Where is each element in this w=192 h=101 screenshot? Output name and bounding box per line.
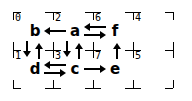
- node-b: b: [30, 22, 41, 40]
- edge-d-to-b: [35, 43, 43, 59]
- grid-tick: [45, 80, 61, 89]
- grid-tick: [13, 80, 21, 89]
- cell-label-1: 1: [15, 50, 21, 61]
- grid-tick: [165, 80, 174, 89]
- cell-label-3: 3: [55, 50, 61, 61]
- grid-graph-diagram: 02641375 bafdce: [0, 0, 192, 101]
- cell-label-2: 2: [55, 12, 61, 23]
- diagram-canvas: 02641375 bafdce: [0, 0, 192, 101]
- edge-a-to-c: [63, 41, 71, 57]
- arrowhead-icon: [63, 51, 71, 57]
- node-a: a: [70, 22, 80, 40]
- arrowhead-icon: [75, 43, 83, 49]
- node-d: d: [30, 60, 41, 78]
- edge-c-to-d: [44, 61, 66, 69]
- cell-label-7: 7: [95, 50, 101, 61]
- arrowhead-icon: [84, 23, 90, 31]
- cell-label-0: 0: [15, 12, 21, 23]
- arrowhead-icon: [100, 65, 106, 73]
- arrowhead-icon: [44, 27, 50, 35]
- grid-tick: [165, 12, 174, 20]
- edge-a-to-b: [44, 27, 66, 35]
- grid-tick: [85, 80, 101, 89]
- edge-c-to-a: [75, 43, 83, 59]
- arrowhead-icon: [44, 61, 50, 69]
- cell-label-4: 4: [135, 12, 141, 23]
- node-e: e: [110, 60, 120, 78]
- edge-a-to-f: [84, 31, 106, 39]
- cell-label-5: 5: [135, 50, 141, 61]
- arrowhead-icon: [113, 43, 121, 49]
- arrowhead-icon: [100, 31, 106, 39]
- cell-label-6: 6: [95, 12, 101, 23]
- arrowhead-icon: [23, 51, 31, 57]
- edge-d-to-c: [44, 69, 66, 77]
- arrowhead-icon: [35, 43, 43, 49]
- arrowhead-icon: [60, 69, 66, 77]
- grid-tick: [165, 42, 174, 58]
- edge-c-to-e: [84, 65, 106, 73]
- grid-tick: [125, 80, 141, 89]
- nodes: bafdce: [30, 22, 120, 78]
- edge-e-to-f: [113, 43, 121, 59]
- edge-f-to-a: [84, 23, 106, 31]
- edge-b-to-d: [23, 41, 31, 57]
- node-f: f: [112, 22, 119, 40]
- node-c: c: [71, 60, 80, 78]
